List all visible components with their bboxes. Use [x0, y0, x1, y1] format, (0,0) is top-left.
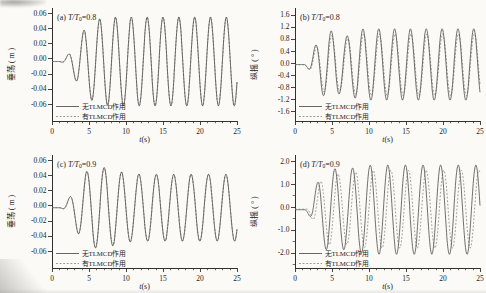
- x-axis-ticks: 0510152025: [50, 121, 241, 136]
- legend: 无TLMCD作用有TLMCD作用: [299, 249, 369, 268]
- y-axis-ticks: 0.060.040.020.00-0.02-0.04-0.06: [31, 156, 52, 256]
- series-dashed-line: [52, 168, 237, 248]
- panel-c-chart: 05101520250.060.040.020.00-0.02-0.04-0.0…: [0, 147, 243, 293]
- y-tick-label: -0.02: [31, 216, 47, 225]
- y-tick-label: 0.8: [280, 34, 290, 43]
- x-tick-label: 20: [439, 127, 447, 136]
- legend-label: 有TLMCD作用: [325, 112, 370, 121]
- y-tick-label: 0.00: [33, 201, 46, 210]
- legend-label: 无TLMCD作用: [325, 102, 370, 111]
- x-axis-label: t(s): [382, 135, 393, 144]
- y-tick-label: -0.4: [278, 71, 290, 80]
- legend-label: 有TLMCD作用: [325, 259, 370, 268]
- x-tick-label: 25: [233, 274, 241, 283]
- legend-label: 有TLMCD作用: [82, 112, 127, 121]
- x-tick-label: 15: [402, 127, 410, 136]
- y-tick-label: 0.04: [33, 24, 46, 33]
- panel-a-chart: 05101520250.060.040.020.00-0.02-0.04-0.0…: [0, 0, 243, 147]
- y-axis-ticks: 1.61.20.80.40.0-0.4-0.8-1.2-1.6: [278, 10, 295, 116]
- panel-title: (a) T/T0=0.8: [57, 13, 96, 23]
- y-tick-label: -0.02: [31, 69, 47, 78]
- x-axis-ticks: 0510152025: [293, 121, 484, 136]
- legend-label: 无TLMCD作用: [82, 249, 127, 258]
- y-axis-label: 垂荡 ( m ): [6, 47, 16, 81]
- x-tick-label: 15: [159, 274, 167, 283]
- panel-d-chart: 05101520252.01.00.0-1.0-2.0无TLMCD作用有TLMC…: [243, 147, 486, 293]
- x-tick-label: 5: [87, 127, 91, 136]
- x-tick-label: 5: [87, 274, 91, 283]
- series-solid-line: [52, 17, 237, 106]
- legend: 无TLMCD作用有TLMCD作用: [299, 102, 369, 121]
- y-axis-ticks: 2.01.00.0-1.0-2.0: [278, 157, 295, 265]
- x-tick-label: 5: [330, 127, 334, 136]
- x-tick-label: 25: [476, 274, 484, 283]
- y-tick-label: -0.06: [31, 100, 47, 109]
- x-tick-label: 25: [233, 127, 241, 136]
- y-tick-label: 0.02: [33, 39, 46, 48]
- series-solid-line: [295, 165, 480, 254]
- x-tick-label: 25: [476, 127, 484, 136]
- y-axis-label: 纵摇 ( ° ): [249, 49, 259, 80]
- y-tick-label: -0.8: [278, 83, 290, 92]
- scanned-figure-page: 05101520250.060.040.020.00-0.02-0.04-0.0…: [0, 0, 486, 293]
- y-tick-label: 0.0: [280, 59, 290, 68]
- legend-label: 无TLMCD作用: [325, 249, 370, 258]
- x-tick-label: 15: [159, 127, 167, 136]
- x-tick-label: 5: [330, 274, 334, 283]
- x-tick-label: 0: [50, 127, 54, 136]
- x-tick-label: 10: [365, 274, 373, 283]
- x-tick-label: 0: [50, 274, 54, 283]
- series-solid-line: [52, 168, 237, 248]
- y-tick-label: 0.0: [280, 203, 290, 212]
- y-tick-label: 0.00: [33, 54, 46, 63]
- y-tick-label: -1.6: [278, 107, 290, 116]
- y-tick-label: -2.0: [278, 248, 290, 257]
- y-tick-label: 0.06: [33, 9, 46, 18]
- y-axis-ticks: 0.060.040.020.00-0.02-0.04-0.06: [31, 9, 52, 109]
- x-tick-label: 20: [196, 127, 204, 136]
- x-tick-label: 10: [365, 127, 373, 136]
- y-tick-label: -0.04: [31, 84, 47, 93]
- axes-spines: [295, 8, 480, 121]
- y-tick-label: -0.06: [31, 247, 47, 256]
- y-tick-label: 2.0: [280, 157, 290, 166]
- x-axis-label: t(s): [139, 135, 150, 144]
- legend: 无TLMCD作用有TLMCD作用: [56, 102, 126, 121]
- y-tick-label: -1.2: [278, 95, 290, 104]
- x-tick-label: 10: [122, 274, 130, 283]
- y-tick-label: 1.0: [280, 180, 290, 189]
- panel-b-chart: 05101520251.61.20.80.40.0-0.4-0.8-1.2-1.…: [243, 0, 486, 147]
- x-tick-label: 0: [293, 127, 297, 136]
- y-tick-label: 0.4: [280, 47, 290, 56]
- y-tick-label: 1.2: [280, 22, 290, 31]
- x-axis-label: t(s): [382, 282, 393, 291]
- y-tick-label: 0.06: [33, 156, 46, 165]
- x-tick-label: 15: [402, 274, 410, 283]
- legend-label: 有TLMCD作用: [82, 259, 127, 268]
- legend-label: 无TLMCD作用: [82, 102, 127, 111]
- x-axis-ticks: 0510152025: [50, 268, 241, 283]
- y-tick-label: 1.6: [280, 10, 290, 19]
- axes-spines: [52, 155, 237, 268]
- x-tick-label: 10: [122, 127, 130, 136]
- subplot-grid: 05101520250.060.040.020.00-0.02-0.04-0.0…: [0, 0, 486, 293]
- legend: 无TLMCD作用有TLMCD作用: [56, 249, 126, 268]
- x-axis-ticks: 0510152025: [293, 268, 484, 283]
- axes-spines: [295, 155, 480, 268]
- panel-title: (d) T/T0=0.9: [300, 160, 340, 170]
- panel-title: (c) T/T0=0.9: [57, 160, 96, 170]
- x-tick-label: 0: [293, 274, 297, 283]
- x-tick-label: 20: [439, 274, 447, 283]
- y-axis-label: 纵摇 ( ° ): [249, 196, 259, 227]
- panel-title: (b) T/T0=0.8: [300, 13, 340, 23]
- y-tick-label: -0.04: [31, 231, 47, 240]
- y-tick-label: 0.02: [33, 186, 46, 195]
- x-axis-label: t(s): [139, 282, 150, 291]
- y-tick-label: 0.04: [33, 171, 46, 180]
- y-axis-label: 垂荡 ( m ): [6, 194, 16, 228]
- x-tick-label: 20: [196, 274, 204, 283]
- y-tick-label: -1.0: [278, 225, 290, 234]
